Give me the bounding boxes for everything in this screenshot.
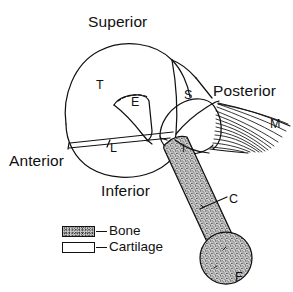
legend-item-cartilage: Cartilage (62, 239, 163, 255)
part-label-M: M (270, 118, 280, 131)
legend-item-bone: Bone (62, 223, 163, 239)
thyroid-cartilage-lower-outline (66, 124, 179, 177)
muscle-fan-boundary-lower (210, 149, 248, 153)
larynx-diagram: Superior Posterior Anterior Inferior T E… (0, 0, 293, 292)
part-label-S: S (184, 89, 192, 102)
orientation-label-anterior: Anterior (9, 153, 64, 169)
part-label-I: I (182, 143, 185, 154)
part-label-L: L (110, 142, 117, 155)
part-label-T: T (96, 79, 104, 92)
legend-label-bone: Bone (109, 224, 141, 238)
bone-head (200, 232, 252, 284)
orientation-label-inferior: Inferior (101, 183, 150, 199)
legend-dash-bone-icon (96, 231, 107, 232)
vocal-fold-lower-line (69, 138, 170, 148)
legend-swatch-cartilage-icon (62, 242, 95, 253)
arytenoid-body-outline (176, 101, 219, 134)
thyroid-cartilage-outline (65, 44, 190, 124)
vocal-fold-upper-line (70, 132, 173, 143)
legend: Bone Cartilage (62, 223, 163, 255)
thyroid-inner-arch (172, 60, 177, 148)
orientation-label-posterior: Posterior (213, 83, 276, 99)
legend-label-cartilage: Cartilage (109, 240, 163, 254)
part-label-C: C (229, 193, 238, 206)
posterior-leader-curve (172, 60, 196, 78)
posterior-leader-line (196, 78, 212, 98)
part-label-E: E (131, 96, 139, 109)
orientation-label-superior: Superior (88, 14, 147, 30)
legend-swatch-bone-icon (62, 226, 95, 237)
legend-dash-cartilage-icon (96, 247, 107, 248)
part-label-F: F (235, 271, 243, 284)
